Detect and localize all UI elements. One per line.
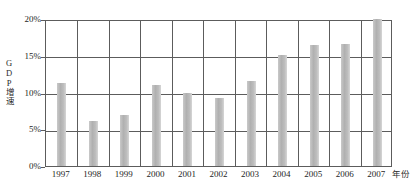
bar xyxy=(57,83,66,166)
y-axis-tick-label: 0% xyxy=(12,162,41,171)
y-axis-tick-label: 10% xyxy=(12,89,41,98)
bar xyxy=(120,115,129,166)
gridline-vertical xyxy=(361,21,362,166)
x-axis-tick-label: 1999 xyxy=(108,169,140,180)
bar xyxy=(215,98,224,166)
bar xyxy=(278,55,287,166)
gridline-horizontal xyxy=(46,94,391,95)
x-axis-tick-label: 1998 xyxy=(77,169,109,180)
gridline-vertical xyxy=(172,21,173,166)
y-axis-tick-label: 15% xyxy=(12,52,41,61)
x-axis-tick-label: 2006 xyxy=(329,169,361,180)
gridline-vertical xyxy=(235,21,236,166)
x-axis-tick-label: 2005 xyxy=(297,169,329,180)
x-axis-tick-label: 2002 xyxy=(203,169,235,180)
bar xyxy=(373,19,382,166)
bar xyxy=(183,93,192,167)
gdp-growth-bar-chart: GDP增速 20%15%10%5%0% 19971998199920002001… xyxy=(0,0,417,193)
gridline-vertical xyxy=(140,21,141,166)
gridline-vertical xyxy=(298,21,299,166)
bar xyxy=(341,44,350,166)
bar xyxy=(247,81,256,166)
gridline-vertical xyxy=(329,21,330,166)
x-axis-tick-label: 2007 xyxy=(360,169,392,180)
x-axis-tick-labels: 1997199819992000200120022003200420052006… xyxy=(45,169,392,185)
x-axis-tick-label: 2004 xyxy=(266,169,298,180)
gridline-vertical xyxy=(266,21,267,166)
y-axis-tickmark xyxy=(41,167,45,168)
y-axis-tick-label: 5% xyxy=(12,125,41,134)
plot-area xyxy=(45,20,392,167)
x-axis-tick-label: 2001 xyxy=(171,169,203,180)
y-axis-tickmark xyxy=(41,57,45,58)
x-axis-title: 年份 xyxy=(392,169,410,180)
gridline-vertical xyxy=(77,21,78,166)
gridline-horizontal xyxy=(46,57,391,58)
x-axis-tick-label: 2003 xyxy=(234,169,266,180)
x-axis-tick-label: 1997 xyxy=(45,169,77,180)
bar xyxy=(152,85,161,166)
gridline-vertical xyxy=(109,21,110,166)
y-axis-tickmark xyxy=(41,94,45,95)
gridline-vertical xyxy=(203,21,204,166)
y-axis-tick-label: 20% xyxy=(12,15,41,24)
x-axis-tick-label: 2000 xyxy=(140,169,172,180)
bar xyxy=(89,121,98,166)
y-axis-tickmark xyxy=(41,20,45,21)
y-axis-tickmark xyxy=(41,130,45,131)
bar xyxy=(310,45,319,166)
y-axis-tick-labels: 20%15%10%5%0% xyxy=(12,0,41,193)
